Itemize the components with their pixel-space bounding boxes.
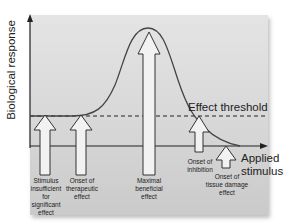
response-curve [30, 28, 240, 146]
arrow-onset-therapeutic-icon [70, 115, 92, 175]
y-axis-arrowhead-icon [27, 14, 33, 22]
arrow-maximal-beneficial-icon [138, 32, 160, 175]
arrow-insufficient-icon [34, 115, 56, 175]
marker-label-onset-inhibition: Onset of inhibition [180, 158, 220, 174]
arrow-onset-inhibition-icon [189, 116, 209, 152]
x-axis-arrowhead-icon [260, 143, 268, 149]
effect-threshold-label: Effect threshold [188, 101, 268, 114]
marker-label-maximal-beneficial: Maximal beneficial effect [128, 177, 170, 201]
marker-label-onset-therapeutic: Onset of therapeutic effect [60, 177, 104, 201]
marker-label-onset-tissue-damage: Onset of tissue damage effect [204, 173, 250, 197]
